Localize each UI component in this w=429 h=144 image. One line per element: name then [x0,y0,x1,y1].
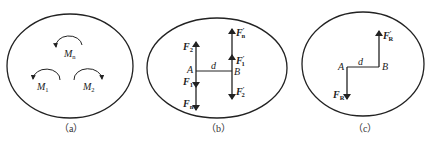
body-outline-b [147,18,287,118]
svg-text:M2: M2 [82,81,95,93]
svg-text:F′1: F′1 [235,54,245,67]
distance-d-label: d [211,60,217,71]
body-outline-c [302,12,424,116]
point-a-label: A [186,64,194,75]
panel-c: A d B FR F′R （c） [302,12,424,134]
svg-text:F2: F2 [182,41,193,53]
diagram-canvas: Mn M1 M2 （a） F2 A F1 Fn d B F′n F′1 F′2 … [0,0,429,144]
caption-c: （c） [353,123,377,134]
svg-text:F′R: F′R [382,29,394,42]
svg-text:Fn: Fn [182,98,194,110]
svg-text:F′n: F′n [235,26,246,39]
point-a-label-c: A [337,61,345,72]
panel-a: Mn M1 M2 （a） [7,14,133,134]
svg-text:Mn: Mn [63,48,76,60]
body-outline-a [7,14,133,118]
svg-text:F1: F1 [182,76,193,88]
moment-m2-icon [74,69,102,80]
point-b-label: B [234,66,240,77]
moment-mn-icon [56,36,82,47]
caption-b: （b） [206,123,231,134]
panel-b: F2 A F1 Fn d B F′n F′1 F′2 （b） [147,18,287,134]
svg-text:FR: FR [332,89,345,101]
svg-text:F′2: F′2 [235,85,245,98]
distance-d-label-c: d [358,56,364,67]
point-b-label-c: B [382,61,388,72]
moment-m1-icon [33,69,60,80]
caption-a: （a） [59,123,83,134]
svg-text:M1: M1 [36,81,49,93]
